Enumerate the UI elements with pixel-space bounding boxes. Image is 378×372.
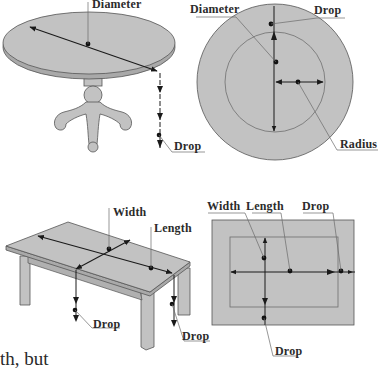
rect-plan-width-label: Width — [207, 200, 240, 212]
round-plan-drop-label: Drop — [314, 4, 341, 16]
rect-table-width-label: Width — [113, 206, 146, 218]
rect-table-drop-label-left: Drop — [93, 318, 120, 330]
round-table-illustration — [3, 2, 205, 152]
rect-plan-illustration — [208, 213, 355, 356]
rect-plan-drop-label-bottom: Drop — [275, 345, 302, 357]
rect-table-length-label: Length — [154, 222, 192, 234]
rect-plan-drop-label-top: Drop — [302, 200, 329, 212]
diagram-canvas — [0, 0, 378, 372]
round-table-diameter-label: Diameter — [92, 0, 142, 10]
rect-table-drop-label-right: Drop — [182, 330, 209, 342]
round-plan-radius-label: Radius — [340, 138, 377, 150]
body-text-fragment: th, but — [0, 349, 49, 368]
pedestal-icon — [54, 78, 131, 152]
round-table-drop-label: Drop — [174, 140, 201, 152]
rect-plan-length-label: Length — [246, 200, 284, 212]
round-plan-diameter-label: Diameter — [190, 3, 240, 15]
